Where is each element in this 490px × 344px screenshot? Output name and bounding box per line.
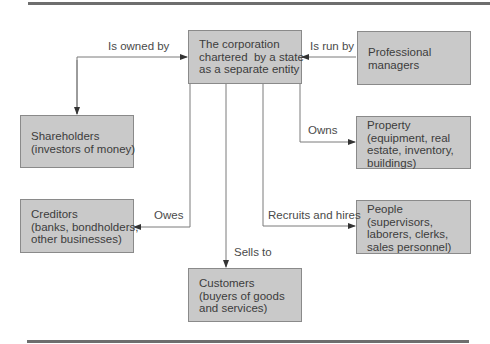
label-run-by: Is run by <box>310 40 354 52</box>
node-corporation-label: The corporation chartered by a state as … <box>199 38 304 76</box>
node-property-label: Property (equipment, real estate, invent… <box>367 119 454 169</box>
node-creditors-label: Creditors (banks, bondholders, other bus… <box>31 208 138 246</box>
node-corporation: The corporation chartered by a state as … <box>188 30 302 84</box>
label-owes: Owes <box>154 209 183 221</box>
node-creditors: Creditors (banks, bondholders, other bus… <box>20 199 134 253</box>
node-managers-label: Professional managers <box>368 46 431 71</box>
label-recruits: Recruits and hires <box>268 209 361 221</box>
node-shareholders: Shareholders (investors of money) <box>20 115 134 168</box>
node-customers-label: Customers (buyers of goods and services) <box>199 277 285 315</box>
node-people-label: People (supervisors, laborers, clerks, s… <box>367 203 451 253</box>
edge-recruits <box>263 83 355 226</box>
node-property: Property (equipment, real estate, invent… <box>356 116 471 169</box>
node-managers: Professional managers <box>357 31 471 85</box>
edge-owes <box>134 83 190 227</box>
label-owns: Owns <box>308 124 337 136</box>
node-people: People (supervisors, laborers, clerks, s… <box>356 200 471 254</box>
label-sells-to: Sells to <box>234 246 272 258</box>
node-customers: Customers (buyers of goods and services) <box>188 268 302 322</box>
label-owned-by: Is owned by <box>108 40 169 52</box>
node-shareholders-label: Shareholders (investors of money) <box>31 130 135 155</box>
edge-owned-by <box>77 57 187 114</box>
